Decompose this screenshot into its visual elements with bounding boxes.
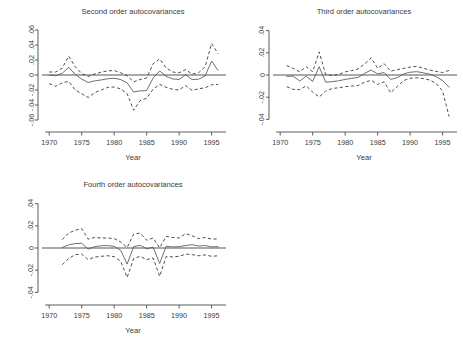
x-axis-title: Year [125,326,141,335]
x-tick-label: 1985 [139,138,155,147]
x-tick-label: 1975 [305,138,321,147]
x-tick-label: 1970 [41,311,57,320]
figure-panels: Second order autocovariances-.06-.04-.02… [0,0,463,347]
x-tick-label: 1980 [106,311,122,320]
y-tick-label: -.04 [258,113,267,125]
y-tick-label: .06 [27,25,36,35]
y-tick-label: -.04 [27,99,36,111]
y-tick-label: -.04 [27,286,36,298]
series-lower-confidence-band [49,81,218,110]
series-lower-confidence-band [62,254,218,277]
x-tick-label: 1970 [41,138,57,147]
x-tick-label: 1995 [204,311,220,320]
x-tick-label: 1995 [435,138,451,147]
y-tick-label: -.02 [27,84,36,96]
panel-title: Fourth order autocovariances [83,180,182,189]
chart-panel-0: Second order autocovariances-.06-.04-.02… [0,0,232,174]
x-tick-label: 1985 [370,138,386,147]
x-axis-title: Year [356,153,372,162]
y-tick-label: -.02 [258,91,267,103]
panel-title: Second order autocovariances [81,7,184,16]
x-axis-title: Year [125,153,141,162]
x-tick-label: 1980 [337,138,353,147]
y-tick-label: .04 [27,40,36,50]
x-tick-label: 1970 [272,138,288,147]
x-tick-label: 1975 [74,138,90,147]
x-tick-label: 1990 [402,138,418,147]
y-tick-label: 0 [258,73,267,77]
autocovariance-plot: Second order autocovariances-.06-.04-.02… [0,0,232,174]
series-estimate [287,67,449,88]
series-upper-confidence-band [49,44,218,82]
y-tick-label: .04 [258,26,267,36]
panel-title: Third order autocovariances [317,7,412,16]
x-tick-label: 1985 [139,311,155,320]
y-tick-label: .02 [258,48,267,58]
x-tick-label: 1995 [204,138,220,147]
chart-panel-2: Fourth order autocovariances-.04-.020.02… [0,173,232,347]
series-lower-confidence-band [287,78,449,117]
y-tick-label: -.06 [27,114,36,126]
y-tick-label: .02 [27,221,36,231]
y-tick-label: 0 [27,246,36,250]
series-estimate [49,61,218,92]
x-tick-label: 1990 [171,311,187,320]
chart-panel-1: Third order autocovariances-.04-.020.02.… [231,0,463,174]
y-tick-label: .02 [27,55,36,65]
series-estimate [62,243,218,264]
autocovariance-plot: Fourth order autocovariances-.04-.020.02… [0,173,232,347]
autocovariance-plot: Third order autocovariances-.04-.020.02.… [231,0,463,174]
x-tick-label: 1980 [106,138,122,147]
x-tick-label: 1975 [74,311,90,320]
y-tick-label: .04 [27,199,36,209]
y-tick-label: 0 [27,73,36,77]
x-tick-label: 1990 [171,138,187,147]
y-tick-label: -.02 [27,264,36,276]
